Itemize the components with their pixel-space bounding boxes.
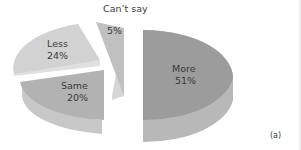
label-same-name: Same xyxy=(61,80,88,92)
label-less-pct: 24% xyxy=(47,50,68,62)
panel-label: (a) xyxy=(270,130,281,142)
label-more-name: More xyxy=(172,63,196,75)
page-edge xyxy=(299,0,301,150)
pie-chart xyxy=(0,0,301,150)
label-cantsay-pct: 5% xyxy=(107,25,122,37)
label-same-pct: 20% xyxy=(67,92,88,104)
label-less-name: Less xyxy=(47,38,68,50)
label-more-pct: 51% xyxy=(175,75,196,87)
label-cantsay-name: Can’t say xyxy=(103,3,148,15)
